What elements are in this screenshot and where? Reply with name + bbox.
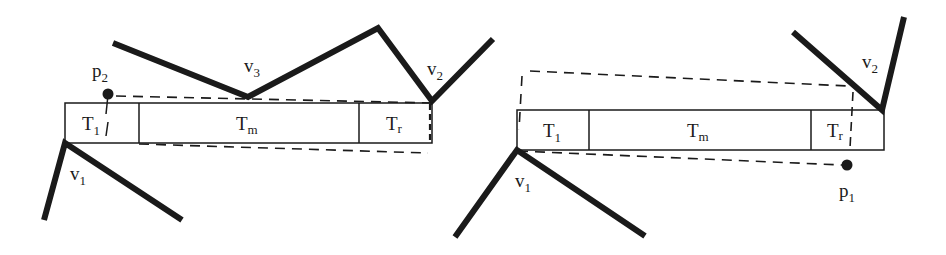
left-dashed-top (116, 96, 432, 103)
label-v2-left: v2 (427, 58, 443, 83)
label-tr-left: Tr (386, 113, 403, 136)
label-tm-right: Tm (687, 120, 709, 144)
right-dashed-right (850, 92, 853, 148)
label-v2-right: v2 (862, 51, 878, 76)
label-p1: p1 (839, 180, 855, 205)
left-dashed-bottom (139, 144, 428, 153)
point-p1 (842, 160, 853, 171)
label-tr-right: Tr (827, 120, 844, 143)
label-tm-left: Tm (236, 113, 258, 137)
right-edge-v2 (793, 17, 904, 110)
label-v1-right: v1 (515, 170, 531, 195)
label-v1-left: v1 (70, 163, 86, 188)
diagram-canvas: p2 v3 v2 v1 T1 Tm Tr (0, 0, 946, 255)
label-v3: v3 (244, 55, 260, 80)
left-edge-v1 (44, 143, 182, 220)
right-panel: v2 v1 p1 T1 Tm Tr (455, 17, 904, 237)
label-p2: p2 (92, 60, 108, 85)
label-t1-left: T1 (82, 113, 100, 138)
right-dashed-bottom (518, 151, 842, 165)
left-panel: p2 v3 v2 v1 T1 Tm Tr (44, 28, 493, 220)
point-p2 (103, 89, 114, 100)
left-t1-tick (106, 122, 108, 136)
right-edge-v1 (455, 150, 645, 237)
right-dashed-top (530, 71, 848, 86)
right-dashed-left (519, 76, 522, 130)
label-t1-right: T1 (543, 120, 561, 145)
